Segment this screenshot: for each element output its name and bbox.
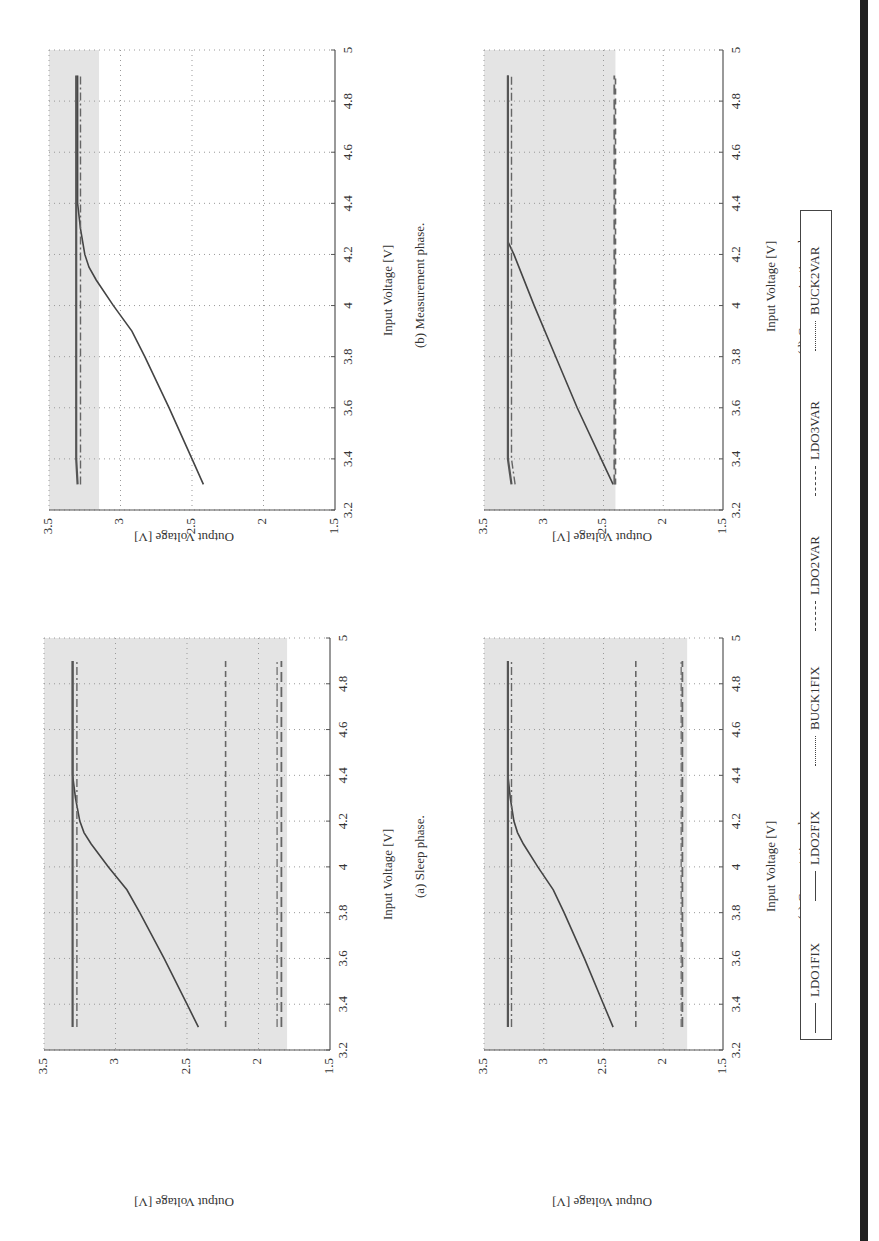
svg-text:3.4: 3.4 [728,996,743,1013]
svg-text:3.6: 3.6 [340,399,355,416]
svg-text:4.2: 4.2 [340,246,355,262]
panel-b-measurement: 1.522.533.53.23.43.63.844.24.44.64.85 (b… [0,0,440,620]
svg-text:5: 5 [335,635,350,642]
legend-item-ldo3var: LDO3VAR [807,401,823,496]
legend-label: LDO3VAR [807,401,823,460]
svg-text:4.8: 4.8 [340,93,355,109]
svg-text:4.6: 4.6 [340,144,355,161]
svg-text:3.6: 3.6 [728,950,743,967]
legend-label: BUCK1FIX [807,666,823,730]
legend-label: LDO2FIX [807,811,823,865]
legend: LDO1FIX LDO2FIX BUCK1FIX LDO2VAR LDO3VAR… [800,210,832,1040]
ylabel-b: Output Voltage [V] [134,529,234,545]
svg-text:3.5: 3.5 [35,1058,50,1074]
svg-text:4: 4 [728,302,743,309]
svg-text:4.2: 4.2 [728,246,743,262]
svg-text:4.6: 4.6 [728,144,743,161]
ylabel-a: Output Voltage [V] [134,1194,234,1210]
svg-text:3.2: 3.2 [728,1042,743,1058]
svg-text:2.5: 2.5 [594,1058,609,1074]
svg-text:3: 3 [535,1058,550,1065]
svg-text:4.8: 4.8 [335,676,350,692]
legend-label: BUCK2VAR [807,247,823,315]
page-edge-bar [860,0,868,1241]
svg-text:5: 5 [728,635,743,642]
xlabel-c: Input Voltage [V] [763,821,779,912]
svg-text:1.5: 1.5 [321,1058,336,1074]
dashed-line-sample [815,601,816,631]
svg-text:3.4: 3.4 [340,450,355,467]
svg-text:2: 2 [654,518,669,525]
svg-text:2: 2 [249,1058,264,1065]
svg-text:3.2: 3.2 [728,502,743,518]
xlabel-b: Input Voltage [V] [380,245,396,336]
shaded-region [484,638,687,1050]
svg-text:3.5: 3.5 [475,518,490,534]
svg-text:3.2: 3.2 [340,502,355,518]
legend-label: LDO2VAR [807,536,823,595]
svg-text:4.4: 4.4 [728,195,743,212]
svg-text:3: 3 [535,518,550,525]
chart-b: 1.522.533.53.23.43.63.844.24.44.64.85 [0,0,440,620]
legend-item-ldo1fix: LDO1FIX [807,943,823,1033]
caption-a: (a) Sleep phase. [412,815,428,898]
svg-text:4.2: 4.2 [335,813,350,829]
dashdot-line-sample [815,736,816,766]
svg-text:3.4: 3.4 [335,996,350,1013]
longdash-line-sample [815,466,816,496]
svg-text:4.8: 4.8 [728,676,743,692]
svg-text:4: 4 [728,863,743,870]
panel-a-sleep: 1.522.533.53.23.43.63.844.24.44.64.85 (a… [0,620,440,1241]
svg-text:3: 3 [111,518,126,525]
svg-text:4.8: 4.8 [728,93,743,109]
svg-text:4: 4 [335,863,350,870]
svg-text:4.2: 4.2 [728,813,743,829]
svg-text:5: 5 [728,47,743,54]
svg-text:3.5: 3.5 [475,1058,490,1074]
svg-text:3: 3 [106,1058,121,1065]
svg-text:2: 2 [254,518,269,525]
svg-text:4.4: 4.4 [335,767,350,784]
shaded-region [484,50,615,510]
dashdot-line-sample [815,321,816,351]
legend-item-ldo2fix: LDO2FIX [807,811,823,901]
svg-text:3.8: 3.8 [728,349,743,365]
chart-a: 1.522.533.53.23.43.63.844.24.44.64.85 [0,620,440,1241]
svg-text:4.6: 4.6 [728,721,743,738]
svg-text:4: 4 [340,302,355,309]
svg-text:3.8: 3.8 [340,349,355,365]
svg-text:1.5: 1.5 [714,518,729,534]
caption-b: (b) Measurement phase. [412,223,428,348]
svg-text:4.4: 4.4 [728,767,743,784]
svg-text:5: 5 [340,47,355,54]
xlabel-d: Input Voltage [V] [763,241,779,332]
shaded-region [49,50,99,510]
svg-text:1.5: 1.5 [326,518,341,534]
svg-text:3.6: 3.6 [335,950,350,967]
svg-text:4.4: 4.4 [340,195,355,212]
solid-line-sample [815,1003,816,1033]
xlabel-a: Input Voltage [V] [380,829,396,920]
legend-label: LDO1FIX [807,943,823,997]
svg-text:2: 2 [654,1058,669,1065]
svg-text:3.8: 3.8 [335,905,350,921]
svg-text:3.6: 3.6 [728,399,743,416]
legend-item-buck2var: BUCK2VAR [807,247,823,351]
shaded-region [44,638,287,1050]
solid-line-sample [815,871,816,901]
svg-text:1.5: 1.5 [714,1058,729,1074]
svg-text:2.5: 2.5 [178,1058,193,1074]
svg-text:3.5: 3.5 [40,518,55,534]
legend-item-ldo2var: LDO2VAR [807,536,823,631]
svg-text:3.2: 3.2 [335,1042,350,1058]
svg-text:3.8: 3.8 [728,905,743,921]
svg-text:4.6: 4.6 [335,721,350,738]
ylabel-c: Output Voltage [V] [552,1194,652,1210]
svg-text:3.4: 3.4 [728,450,743,467]
legend-item-buck1fix: BUCK1FIX [807,666,823,766]
ylabel-d: Output Voltage [V] [552,529,652,545]
